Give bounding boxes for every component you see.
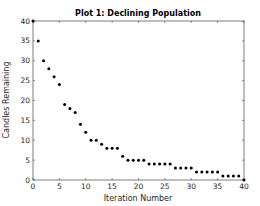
data-point: [105, 147, 108, 150]
x-tick-label: 10: [81, 182, 91, 191]
y-tick-label: 5: [25, 156, 30, 165]
data-point: [206, 171, 209, 174]
data-point: [100, 143, 103, 146]
scatter-chart: Plot 1: Declining Population 05101520253…: [0, 0, 260, 206]
x-tick-label: 5: [57, 182, 62, 191]
data-point: [221, 175, 224, 178]
data-point: [142, 159, 145, 162]
y-tick-label: 0: [25, 176, 30, 185]
y-tick-label: 20: [20, 96, 30, 105]
data-point: [74, 111, 77, 114]
data-point: [121, 155, 124, 158]
data-point: [174, 167, 177, 170]
x-axis-ticks: 0510152025303540: [31, 21, 249, 191]
data-point: [243, 179, 246, 182]
data-point: [195, 171, 198, 174]
data-point: [58, 83, 61, 86]
y-tick-label: 35: [20, 36, 30, 45]
y-tick-label: 15: [20, 116, 30, 125]
x-tick-label: 15: [107, 182, 117, 191]
y-tick-label: 30: [20, 56, 30, 65]
data-point: [42, 59, 45, 62]
data-point: [211, 171, 214, 174]
data-point: [158, 163, 161, 166]
y-tick-label: 40: [20, 17, 30, 26]
data-point: [84, 131, 87, 134]
data-point: [90, 139, 93, 142]
x-axis-label: Iteration Number: [104, 194, 173, 203]
data-point: [63, 103, 66, 106]
data-point: [37, 39, 40, 42]
data-point: [132, 159, 135, 162]
data-point: [47, 67, 50, 70]
data-point: [111, 147, 114, 150]
data-points: [32, 20, 246, 182]
data-point: [190, 167, 193, 170]
data-point: [79, 123, 82, 126]
y-tick-label: 25: [20, 76, 30, 85]
data-point: [32, 20, 35, 23]
data-point: [184, 167, 187, 170]
x-tick-label: 30: [186, 182, 196, 191]
data-point: [148, 163, 151, 166]
x-tick-label: 0: [31, 182, 36, 191]
y-axis-label: Candles Remaining: [2, 62, 11, 139]
x-tick-label: 20: [134, 182, 144, 191]
data-point: [237, 175, 240, 178]
x-tick-label: 25: [160, 182, 170, 191]
y-tick-label: 10: [20, 136, 30, 145]
data-point: [216, 171, 219, 174]
data-point: [95, 139, 98, 142]
data-point: [68, 107, 71, 110]
data-point: [116, 147, 119, 150]
axes-box: [33, 21, 244, 180]
data-point: [153, 163, 156, 166]
data-point: [169, 163, 172, 166]
data-point: [53, 75, 56, 78]
data-point: [179, 167, 182, 170]
data-point: [227, 175, 230, 178]
chart-title: Plot 1: Declining Population: [75, 9, 201, 18]
data-point: [163, 163, 166, 166]
x-tick-label: 35: [213, 182, 223, 191]
data-point: [200, 171, 203, 174]
data-point: [126, 159, 129, 162]
data-point: [137, 159, 140, 162]
x-tick-label: 40: [239, 182, 249, 191]
data-point: [232, 175, 235, 178]
